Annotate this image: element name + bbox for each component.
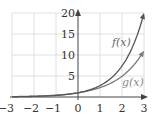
x-tick-neg3: −3 xyxy=(0,102,14,115)
y-tick-5: 5 xyxy=(68,70,75,83)
x-tick-1: 1 xyxy=(97,102,104,115)
g-arrow-icon xyxy=(139,51,144,58)
x-tick-2: 2 xyxy=(119,102,126,115)
x-tick-0: 0 xyxy=(75,102,82,115)
x-tick-3: 3 xyxy=(141,102,148,115)
y-tick-20: 20 xyxy=(61,7,75,20)
y-tick-10: 10 xyxy=(61,49,75,62)
x-tick-neg1: −1 xyxy=(45,102,61,115)
x-tick-neg2: −2 xyxy=(23,102,39,115)
g-label: g(x) xyxy=(122,76,144,89)
chart: 20 15 10 5 −3 −2 −1 0 1 2 3 f(x) g(x) xyxy=(0,0,154,115)
f-label: f(x) xyxy=(111,36,131,49)
y-tick-15: 15 xyxy=(61,28,75,41)
x-axis-arrow-icon xyxy=(141,94,148,100)
y-axis-arrow-icon xyxy=(75,9,81,16)
curve-g xyxy=(12,53,143,97)
